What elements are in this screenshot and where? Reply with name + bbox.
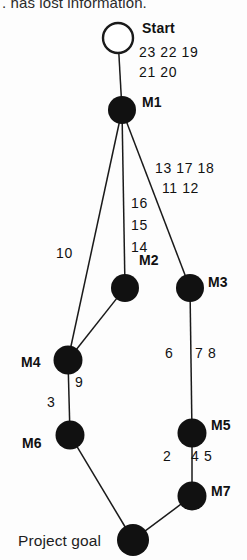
edge-label-m1-m3-row1: 13 17 18 [155,161,214,177]
edge-M3-M5 [190,300,192,421]
edge-label-start-m1-row1: 23 22 19 [139,45,198,61]
node-label-M3: M3 [208,275,228,291]
node-M2[interactable] [111,274,139,302]
edge-label-m3-m5-right: 7 8 [195,346,216,362]
edge-label-m1-m4: 10 [56,246,73,262]
edge-M1-M2 [122,122,125,276]
node-layer [54,23,207,556]
node-label-M1: M1 [142,95,162,111]
node-label-M7: M7 [211,484,231,500]
node-M6[interactable] [56,421,85,450]
edge-label-m5-m7-left: 2 [163,449,171,465]
node-M7[interactable] [178,482,207,511]
edge-label-m5-m7-right: 4 5 [191,449,212,465]
edge-M2-M4 [76,297,118,350]
edge-M6-goal [76,446,125,528]
edge-label-m4-m6-right: 9 [75,375,83,391]
edge-label-m1-m2-c: 14 [131,240,148,256]
edge-label-m3-m5-left: 6 [165,346,173,362]
node-M1[interactable] [108,96,136,124]
node-goal[interactable] [117,524,149,556]
edge-label-start-m1-row2: 21 20 [139,65,177,81]
edge-label-m4-m6-left: 3 [47,395,55,411]
node-label-M5: M5 [211,418,231,434]
node-start[interactable] [103,23,133,53]
node-M4[interactable] [54,346,83,375]
edge-label-m1-m2-a: 16 [131,196,148,212]
edge-M1-M4 [71,122,120,348]
edge-label-m1-m2-b: 15 [131,218,148,234]
edge-M4-M6 [68,372,69,422]
edge-label-m1-m3-row2: 11 12 [162,181,199,197]
edge-M7-goal [144,503,182,531]
node-M5[interactable] [178,419,207,448]
figure-canvas: . has lost information. StartM1M2M3M4M5M… [0,0,247,560]
node-M3[interactable] [176,274,204,302]
node-label-M4: M4 [21,355,41,371]
edge-start-M1 [119,51,122,98]
node-label-start: Start [142,21,175,37]
node-label-goal: Project goal [18,532,101,549]
node-label-M6: M6 [22,436,42,452]
